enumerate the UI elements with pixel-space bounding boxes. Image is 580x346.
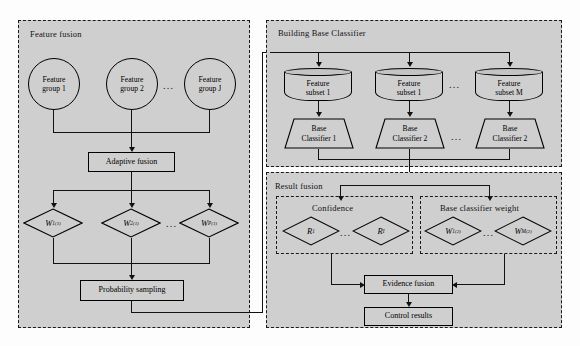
control-results-box: Control results — [364, 307, 453, 326]
weight-diamond-2-label: W2(1) — [101, 208, 161, 238]
feature-subset-1-line1: Feature — [307, 79, 330, 88]
classifiers-ellipsis: ... — [451, 132, 462, 142]
confidence-i-sub: I — [383, 228, 385, 234]
line-weight-down — [504, 254, 505, 285]
line-bus-to-adaptive — [131, 132, 132, 148]
line-groupj-down — [209, 110, 210, 133]
base-classifier-m-label: Base Classifier 2 — [475, 118, 545, 149]
base-classifier-2-line2: Classifier 2 — [393, 134, 428, 143]
weight-p-sup: (1) — [211, 221, 217, 226]
feature-subset-1-line2: subset 1 — [306, 88, 331, 97]
base-classifier-1-label: Base Classifier 1 — [284, 118, 354, 149]
base-classifier-m: Base Classifier 2 — [475, 118, 545, 149]
arrow-into-base-classifier-1 — [316, 112, 322, 117]
line-bus-w1 — [53, 190, 54, 204]
subpanel-base-classifier-weight-title: Base classifier weight — [440, 203, 519, 213]
feature-subset-m: Feature subset M — [475, 68, 543, 101]
base-classifier-2-line1: Base — [403, 124, 418, 133]
confidence-diamond-1-label: R1 — [282, 216, 340, 246]
weights-ellipsis: ... — [166, 219, 177, 229]
line-group1-down — [53, 110, 54, 133]
subpanel-confidence-title: Confidence — [312, 203, 353, 213]
arrow-into-base-classifier-m — [507, 112, 513, 117]
feature-group-2: Feature group 2 — [106, 58, 158, 110]
classifier-weight-1-sup: (2) — [455, 229, 461, 234]
confidence-ellipsis: ... — [340, 228, 351, 238]
line-feed-up-to-classifier — [262, 52, 263, 313]
arrow-into-subset-1 — [316, 62, 322, 67]
line-w2-down — [131, 238, 132, 264]
weight-2-base: W — [123, 218, 130, 228]
base-classifier-m-line1: Base — [503, 124, 518, 133]
line-group2-down — [131, 110, 132, 133]
base-classifier-1-line2: Classifier 1 — [302, 134, 337, 143]
weight-p-base: W — [201, 218, 208, 228]
weight-diamond-2: W2(1) — [101, 208, 161, 238]
line-confidence-right — [331, 284, 362, 285]
cylinder-lid-icon — [475, 68, 543, 76]
diagram-canvas: Feature fusion Feature group 1 Feature g… — [0, 0, 580, 346]
line-adaptive-down — [131, 172, 132, 191]
weight-1-sup: (1) — [55, 221, 61, 226]
confidence-diamond-1: R1 — [282, 216, 340, 246]
confidence-1-sub: 1 — [312, 228, 315, 234]
weight-diamond-1-label: W1(1) — [23, 208, 83, 238]
adaptive-fusion-box: Adaptive fusion — [88, 152, 175, 172]
weight-diamond-p-label: WP(1) — [179, 208, 239, 238]
subsets-ellipsis: ... — [449, 80, 460, 90]
panel-building-base-classifier-title: Building Base Classifier — [278, 28, 366, 38]
feature-subset-2: Feature subset 1 — [375, 68, 443, 101]
panel-result-fusion-title: Result fusion — [275, 181, 323, 191]
feature-group-2-line1: Feature — [121, 75, 144, 84]
feature-group-j-line2: group J — [199, 84, 222, 93]
base-classifier-2-label: Base Classifier 2 — [375, 118, 445, 149]
feature-subset-m-body: Feature subset M — [475, 72, 543, 101]
line-wp-down — [209, 238, 210, 264]
classifier-weight-1-label: W1(2) — [424, 216, 482, 246]
arrow-into-subset-2 — [407, 62, 413, 67]
feature-group-1-line2: group 1 — [42, 84, 65, 93]
feature-group-1: Feature group 1 — [28, 58, 80, 110]
feature-subset-1: Feature subset 1 — [284, 68, 352, 101]
feature-group-j-line1: Feature — [199, 75, 222, 84]
confidence-diamond-i: RI — [352, 216, 410, 246]
weight-diamond-1: W1(1) — [23, 208, 83, 238]
bus-classifiers-out — [318, 159, 510, 160]
feature-subset-2-line2: subset 1 — [397, 88, 422, 97]
classifier-weight-diamond-1: W1(2) — [424, 216, 482, 246]
bus-subsets — [270, 52, 510, 53]
bus-result-split — [340, 185, 490, 186]
arrow-into-base-classifier-2 — [407, 112, 413, 117]
classifier-weight-m-sup: (2) — [526, 229, 532, 234]
weight-2-sup: (1) — [133, 221, 139, 226]
weight-diamond-p: WP(1) — [179, 208, 239, 238]
feature-group-2-line2: group 2 — [120, 84, 143, 93]
feature-subset-m-line2: subset M — [495, 88, 523, 97]
base-classifier-m-line2: Classifier 2 — [493, 134, 528, 143]
line-bus-w2 — [131, 190, 132, 204]
confidence-diamond-i-label: RI — [352, 216, 410, 246]
line-weight-left — [456, 284, 505, 285]
line-confidence-down — [331, 254, 332, 285]
base-classifier-1-line1: Base — [312, 124, 327, 133]
feature-group-1-line1: Feature — [43, 75, 66, 84]
base-classifier-2: Base Classifier 2 — [375, 118, 445, 149]
feature-groups-ellipsis: ... — [163, 81, 174, 91]
classifier-weight-m-label: WM(2) — [494, 216, 552, 246]
panel-feature-fusion-title: Feature fusion — [30, 29, 82, 39]
classifier-weight-ellipsis: ... — [483, 228, 494, 238]
base-classifier-1: Base Classifier 1 — [284, 118, 354, 149]
feature-subset-2-line1: Feature — [398, 79, 421, 88]
feature-group-j: Feature group J — [184, 58, 236, 110]
probability-sampling-box: Probability sampling — [80, 280, 184, 301]
line-w1-down — [53, 238, 54, 264]
classifier-weight-diamond-m: WM(2) — [494, 216, 552, 246]
feature-subset-2-body: Feature subset 1 — [375, 72, 443, 101]
cylinder-lid-icon — [375, 68, 443, 76]
feature-subset-m-line1: Feature — [498, 79, 521, 88]
arrow-into-subset-m — [507, 62, 513, 67]
feature-subset-1-body: Feature subset 1 — [284, 72, 352, 101]
line-prob-out-right — [131, 312, 263, 313]
classifier-weight-1-base: W — [445, 226, 452, 236]
cylinder-lid-icon — [284, 68, 352, 76]
